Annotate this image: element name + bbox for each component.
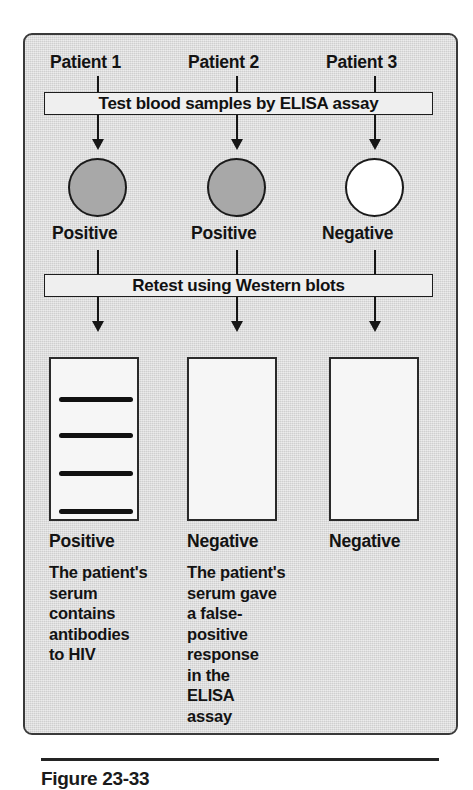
blot-band: [59, 509, 133, 514]
figure-panel: Patient 1 Patient 2 Patient 3 Test blood…: [23, 33, 458, 735]
blot-band: [59, 471, 133, 476]
figure-caption: Figure 23-33: [41, 768, 439, 790]
flowchart-layer: Patient 1 Patient 2 Patient 3 Test blood…: [25, 35, 460, 737]
arrow-head-elisa-2: [231, 139, 243, 150]
elisa-result-patient-3: Negative: [322, 224, 393, 242]
arrow-head-western-2: [231, 321, 243, 332]
blot-band: [59, 397, 133, 402]
arrow-head-western-1: [92, 321, 104, 332]
stem-result-1-to-western: [97, 250, 99, 274]
elisa-result-patient-1: Positive: [52, 224, 118, 242]
patient-2-label: Patient 2: [188, 53, 259, 71]
blot-result-patient-1: Positive: [49, 532, 115, 550]
elisa-process-bar: Test blood samples by ELISA assay: [44, 92, 433, 115]
arrow-stem-elisa-1: [97, 115, 99, 141]
arrow-stem-western-1: [97, 297, 99, 323]
explanation-patient-2: The patient's serum gave a false- positi…: [187, 562, 322, 726]
arrow-stem-elisa-3: [374, 115, 376, 141]
elisa-well-patient-3: [345, 158, 404, 217]
elisa-well-patient-2: [207, 158, 266, 217]
western-process-label: Retest using Western blots: [132, 276, 344, 296]
caption-rule: [41, 758, 439, 761]
western-process-bar: Retest using Western blots: [44, 274, 433, 297]
blot-result-patient-2: Negative: [187, 532, 258, 550]
stem-result-3-to-western: [374, 250, 376, 274]
arrow-stem-elisa-2: [236, 115, 238, 141]
stem-patient-1-to-elisa: [97, 76, 99, 92]
arrow-head-elisa-3: [369, 139, 381, 150]
stem-result-2-to-western: [236, 250, 238, 274]
blot-result-patient-3: Negative: [329, 532, 400, 550]
stem-patient-3-to-elisa: [374, 76, 376, 92]
western-blot-patient-2: [187, 357, 277, 521]
arrow-stem-western-3: [374, 297, 376, 323]
western-blot-patient-3: [329, 357, 419, 521]
western-blot-patient-1: [49, 357, 139, 521]
elisa-process-label: Test blood samples by ELISA assay: [99, 94, 379, 114]
explanation-patient-1: The patient's serum contains antibodies …: [49, 562, 181, 665]
patient-1-label: Patient 1: [50, 53, 121, 71]
arrow-stem-western-2: [236, 297, 238, 323]
elisa-well-patient-1: [68, 158, 127, 217]
arrow-head-western-3: [369, 321, 381, 332]
arrow-head-elisa-1: [92, 139, 104, 150]
stem-patient-2-to-elisa: [236, 76, 238, 92]
blot-band: [59, 433, 133, 438]
patient-3-label: Patient 3: [326, 53, 397, 71]
elisa-result-patient-2: Positive: [191, 224, 257, 242]
